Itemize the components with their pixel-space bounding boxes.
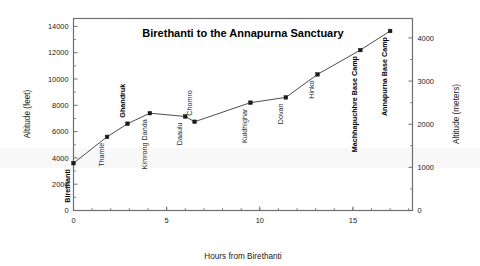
data-point-marker: [284, 96, 288, 100]
y-tick-label-left: 4000: [52, 154, 68, 163]
y-tick-label-right: 4000: [418, 34, 434, 43]
data-point-label: Thamle: [97, 143, 106, 167]
x-tick-label: 15: [349, 216, 357, 225]
y-tick-label-right: 3000: [418, 77, 434, 86]
data-point-marker: [316, 73, 320, 77]
data-point-label: Kuldhighar: [240, 108, 249, 143]
data-point-label: Birethanti: [64, 169, 73, 203]
data-point-marker: [249, 101, 253, 105]
data-point-marker: [126, 122, 130, 126]
y-tick-label-left: 14000: [48, 22, 69, 31]
data-point-label: Ghandruk: [118, 84, 127, 118]
data-point-marker: [72, 161, 76, 165]
y-tick-label-left: 10000: [48, 75, 69, 84]
data-point-marker: [388, 29, 392, 33]
data-point-label: Annapurna Base Camp: [380, 36, 389, 116]
y-tick-label-right: 0: [418, 206, 422, 215]
chart-container: 02000400060008000100001200014000 0100020…: [0, 0, 480, 266]
y-tick-label-left: 6000: [52, 127, 68, 136]
x-tick-label: 10: [256, 216, 264, 225]
data-point-label: Dovan: [276, 103, 285, 124]
data-point-label: Machhapuchhre Base Camp: [350, 55, 359, 152]
y-axis-title-right: Altitude (meters): [452, 84, 461, 144]
y-tick-label-right: 1000: [418, 163, 434, 172]
data-point-label: Chomro: [185, 90, 194, 116]
data-point-marker: [359, 48, 363, 52]
altitude-profile-chart: 02000400060008000100001200014000 0100020…: [0, 0, 480, 266]
y-tick-label-left: 12000: [48, 48, 69, 57]
x-tick-label: 0: [71, 216, 75, 225]
y-tick-label-right: 2000: [418, 120, 434, 129]
data-point-label: Hinko: [308, 80, 317, 98]
data-point-marker: [148, 111, 152, 115]
data-point-label: Kimrong Danda: [140, 119, 149, 169]
x-tick-label: 5: [165, 216, 169, 225]
data-point-label: Daaulu: [175, 122, 184, 145]
data-point-marker: [193, 120, 197, 124]
y-tick-label-left: 0: [64, 206, 68, 215]
chart-title: Birethanti to the Annapurna Sanctuary: [142, 27, 344, 39]
y-axis-title-left: Altitude (feet): [23, 89, 32, 138]
x-axis-title: Hours from Birethanti: [204, 252, 282, 261]
y-tick-label-left: 8000: [52, 101, 68, 110]
data-point-marker: [105, 135, 109, 139]
